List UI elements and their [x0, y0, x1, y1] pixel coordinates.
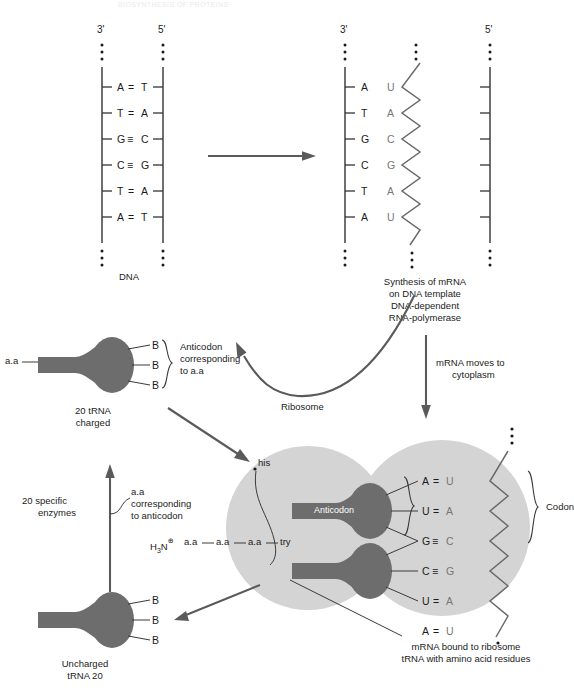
mrna-base-0: U — [387, 81, 395, 93]
ribo-bond-1: = — [433, 505, 439, 517]
dna-base-right-4: A — [141, 185, 148, 197]
dna-bond-5: = — [128, 211, 134, 223]
anticodon-label: Anticodon — [314, 504, 354, 516]
his-label: his — [258, 457, 270, 469]
ribo-anticodon-base-4: U — [422, 595, 430, 607]
charged-trna-base-0: B — [152, 339, 159, 351]
ribosome-label: Ribosome — [281, 401, 324, 413]
peptide-bonds — [150, 536, 310, 552]
dna-base-left-3: C — [117, 159, 125, 171]
mrna-caption-line-0: Synthesis of mRNA — [330, 276, 520, 288]
enzymes-note-line-0: a.a — [131, 486, 144, 498]
ribo-codon-base-0: U — [446, 475, 454, 487]
enzymes-note-line-2: to anticodon — [131, 510, 183, 522]
mrna-base-3: G — [387, 159, 395, 171]
uncharged-trna-base-1: B — [152, 614, 159, 626]
dna-label: DNA — [119, 271, 139, 283]
mrna-cytoplasm-label-line-1: cytoplasm — [452, 369, 495, 381]
dna-base-right-2: C — [141, 133, 149, 145]
dna-base-left-1: T — [117, 107, 123, 119]
ribo-anticodon-base-1: U — [422, 505, 430, 517]
ribo-bond-2: ≡ — [432, 535, 438, 547]
mrna-synthesis-panel: 3' 5' A T G C T A U A C G A U Synthesis … — [330, 0, 562, 340]
anticodon-note-line-0: Anticodon — [180, 341, 222, 353]
dna-base-left-4: T — [117, 185, 123, 197]
ribosome-caption-line-0: mRNA bound to ribosome — [370, 641, 562, 653]
charged-trna-base-2: B — [152, 379, 159, 391]
charged-trna-base-1: B — [152, 359, 159, 371]
dna-bond-4: = — [128, 185, 134, 197]
anticodon-note-line-2: to a.a — [180, 365, 204, 377]
ribo-bond-3: ≡ — [432, 565, 438, 577]
ribosome-to-uncharged-trna-arrow — [168, 585, 264, 627]
dna-right-prime: 5' — [158, 24, 165, 35]
mrna-left-prime: 3' — [340, 24, 347, 35]
charged-trna-aa-label: a.a — [5, 355, 18, 367]
mrna-template-base-2: G — [361, 133, 369, 145]
anticodon-note-line-1: corresponding — [180, 353, 240, 365]
mrna-template-base-4: T — [361, 185, 367, 197]
charged-trna-caption-line-1: charged — [38, 417, 148, 429]
enzymes-label-line-1: enzymes — [38, 507, 76, 519]
mrna-right-prime: 5' — [485, 24, 492, 35]
ribo-anticodon-base-2: G — [422, 535, 430, 547]
dna-bond-3: ≡ — [127, 159, 133, 171]
ribo-codon-base-1: A — [446, 505, 453, 517]
dna-base-right-1: A — [141, 107, 148, 119]
ribosome-caption-line-1: tRNA with amino acid residues — [370, 653, 562, 665]
enzymes-note-line-1: corresponding — [131, 498, 191, 510]
mrna-template-base-0: A — [361, 81, 368, 93]
ribo-codon-base-4: A — [446, 595, 453, 607]
ribo-codon-base-5: U — [446, 625, 454, 637]
mrna-base-5: U — [387, 211, 395, 223]
mrna-base-2: C — [387, 133, 395, 145]
ribo-anticodon-base-5: A — [422, 625, 429, 637]
uncharged-trna-caption-line-0: Uncharged — [30, 658, 140, 670]
charged-trna-caption-line-0: 20 tRNA — [38, 405, 148, 417]
enzymes-label-line-0: 20 specific — [22, 495, 67, 507]
dna-base-left-0: A — [117, 81, 124, 93]
dna-base-right-3: G — [141, 159, 149, 171]
mrna-cytoplasm-label-line-0: mRNA moves to — [436, 357, 505, 369]
ribosome-caption-leader-line — [290, 580, 420, 642]
trna-recycle-curved-arrow — [228, 292, 428, 402]
uncharged-trna-base-2: B — [152, 634, 159, 646]
uncharged-trna-base-0: B — [152, 594, 159, 606]
dna-base-right-0: T — [141, 81, 147, 93]
ribo-codon-base-2: C — [446, 535, 454, 547]
transcription-arrow — [208, 148, 318, 164]
codon-label: Codon — [546, 501, 574, 513]
ribo-anticodon-base-3: C — [422, 565, 430, 577]
dna-base-right-5: T — [141, 211, 147, 223]
ribo-bond-4: = — [433, 595, 439, 607]
ribo-anticodon-base-0: A — [422, 475, 429, 487]
dna-base-left-2: G — [117, 133, 125, 145]
ribo-bond-5: = — [433, 625, 439, 637]
dna-left-prime: 3' — [97, 24, 104, 35]
uncharged-trna-group: B B B Uncharged tRNA 20 — [0, 590, 180, 691]
dna-bond-1: = — [128, 107, 134, 119]
dna-bond-0: = — [128, 81, 134, 93]
mrna-template-base-3: C — [361, 159, 369, 171]
dna-bond-2: ≡ — [127, 133, 133, 145]
enzymes-up-arrow — [96, 462, 136, 594]
dna-base-left-5: A — [117, 211, 124, 223]
mrna-base-1: A — [387, 107, 394, 119]
mrna-template-base-5: A — [361, 211, 368, 223]
mrna-base-4: A — [387, 185, 394, 197]
mrna-template-base-1: T — [361, 107, 367, 119]
ribo-codon-base-3: G — [446, 565, 454, 577]
uncharged-trna-caption-line-1: tRNA 20 — [30, 670, 140, 682]
ribo-bond-0: = — [433, 475, 439, 487]
